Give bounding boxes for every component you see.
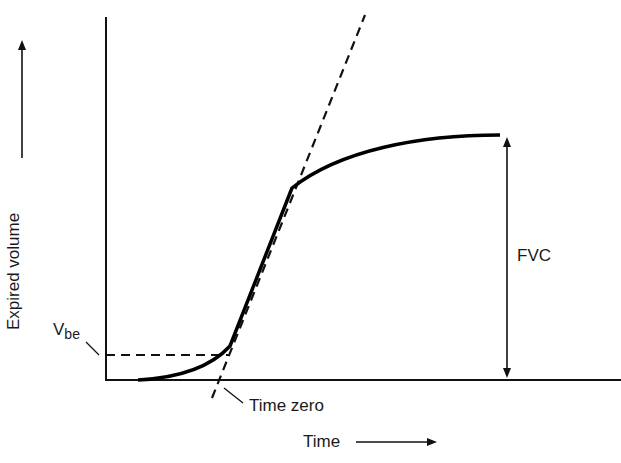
y-axis-label: Expired volume (4, 213, 24, 330)
time-zero-leader (224, 388, 243, 403)
time-zero-label: Time zero (249, 396, 324, 416)
vbe-leader (86, 342, 99, 355)
fvc-label: FVC (517, 246, 551, 266)
diagram-canvas (0, 0, 621, 463)
volume-curve (138, 135, 500, 380)
vbe-label: Vbe (53, 320, 80, 342)
back-extrapolation-line (212, 15, 365, 398)
x-axis-label: Time (303, 432, 340, 452)
